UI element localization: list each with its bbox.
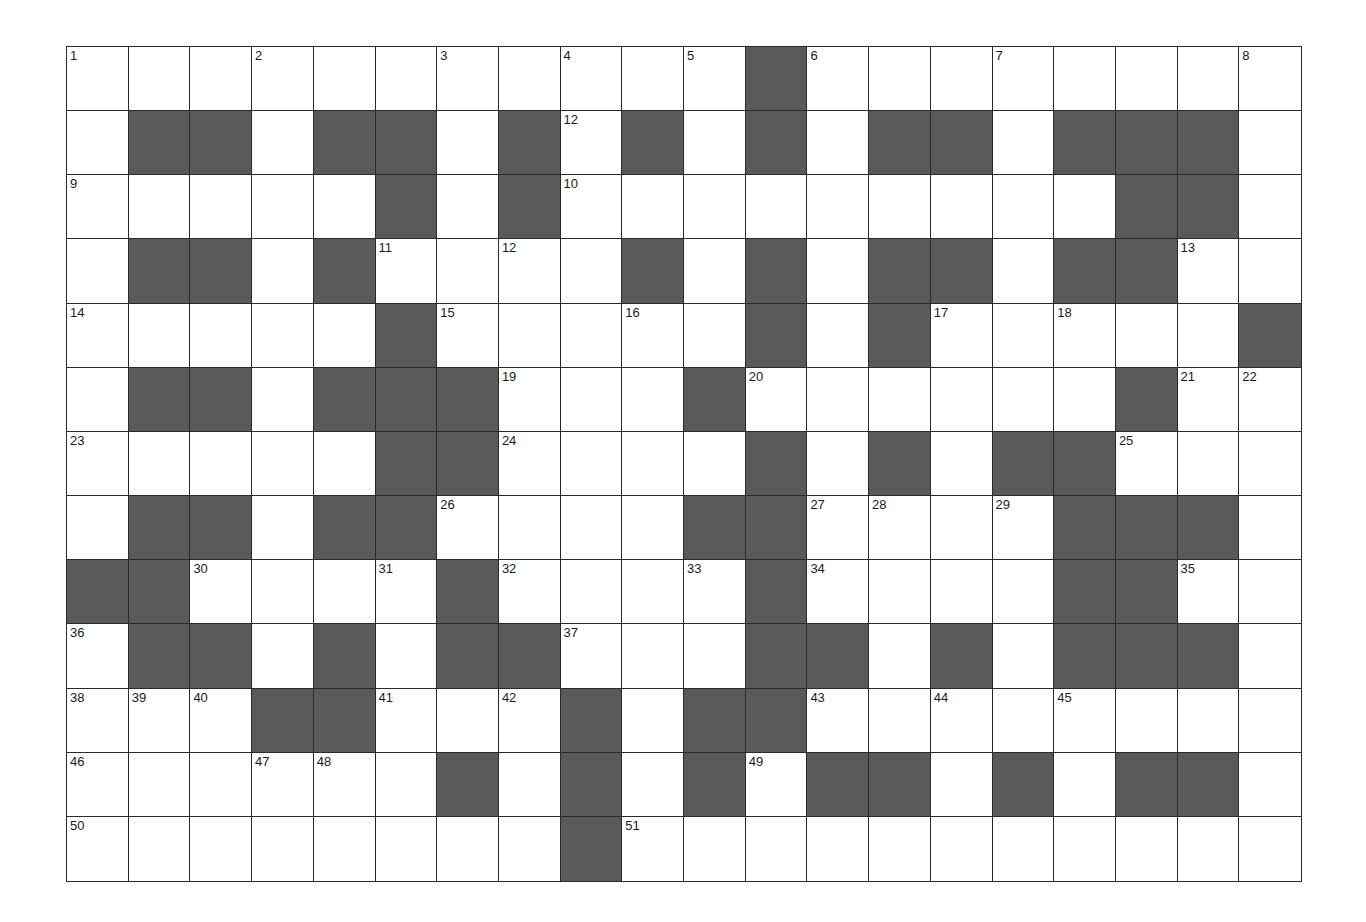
answer-cell[interactable]: [376, 47, 438, 111]
answer-cell[interactable]: [252, 239, 314, 303]
answer-cell[interactable]: [129, 175, 191, 239]
answer-cell[interactable]: [437, 175, 499, 239]
answer-cell[interactable]: [314, 817, 376, 881]
answer-cell[interactable]: [376, 753, 438, 817]
answer-cell[interactable]: 24: [499, 432, 561, 496]
answer-cell[interactable]: [437, 239, 499, 303]
answer-cell[interactable]: 8: [1239, 47, 1301, 111]
answer-cell[interactable]: [190, 432, 252, 496]
answer-cell[interactable]: [1239, 817, 1301, 881]
answer-cell[interactable]: [1239, 111, 1301, 175]
answer-cell[interactable]: [561, 304, 623, 368]
answer-cell[interactable]: [1239, 624, 1301, 688]
answer-cell[interactable]: [931, 175, 993, 239]
answer-cell[interactable]: 7: [993, 47, 1055, 111]
answer-cell[interactable]: [684, 111, 746, 175]
answer-cell[interactable]: [499, 47, 561, 111]
answer-cell[interactable]: 19: [499, 368, 561, 432]
answer-cell[interactable]: [252, 111, 314, 175]
answer-cell[interactable]: 46: [67, 753, 129, 817]
answer-cell[interactable]: [1178, 817, 1240, 881]
answer-cell[interactable]: [437, 817, 499, 881]
answer-cell[interactable]: [622, 175, 684, 239]
answer-cell[interactable]: 38: [67, 689, 129, 753]
answer-cell[interactable]: [807, 817, 869, 881]
answer-cell[interactable]: [1239, 496, 1301, 560]
answer-cell[interactable]: 26: [437, 496, 499, 560]
answer-cell[interactable]: 41: [376, 689, 438, 753]
answer-cell[interactable]: [931, 47, 993, 111]
answer-cell[interactable]: 28: [869, 496, 931, 560]
answer-cell[interactable]: [129, 304, 191, 368]
answer-cell[interactable]: 34: [807, 560, 869, 624]
answer-cell[interactable]: 1: [67, 47, 129, 111]
answer-cell[interactable]: [684, 817, 746, 881]
answer-cell[interactable]: 33: [684, 560, 746, 624]
answer-cell[interactable]: 6: [807, 47, 869, 111]
answer-cell[interactable]: [252, 304, 314, 368]
answer-cell[interactable]: [1054, 753, 1116, 817]
answer-cell[interactable]: [993, 304, 1055, 368]
answer-cell[interactable]: [931, 496, 993, 560]
answer-cell[interactable]: [869, 817, 931, 881]
answer-cell[interactable]: [190, 753, 252, 817]
answer-cell[interactable]: 30: [190, 560, 252, 624]
answer-cell[interactable]: [869, 560, 931, 624]
answer-cell[interactable]: [314, 175, 376, 239]
answer-cell[interactable]: [1178, 47, 1240, 111]
answer-cell[interactable]: [129, 47, 191, 111]
answer-cell[interactable]: [684, 239, 746, 303]
answer-cell[interactable]: 49: [746, 753, 808, 817]
answer-cell[interactable]: [190, 304, 252, 368]
answer-cell[interactable]: [376, 817, 438, 881]
answer-cell[interactable]: 32: [499, 560, 561, 624]
answer-cell[interactable]: 51: [622, 817, 684, 881]
answer-cell[interactable]: [746, 175, 808, 239]
answer-cell[interactable]: [993, 111, 1055, 175]
answer-cell[interactable]: 42: [499, 689, 561, 753]
answer-cell[interactable]: [190, 817, 252, 881]
answer-cell[interactable]: [561, 496, 623, 560]
answer-cell[interactable]: [993, 560, 1055, 624]
answer-cell[interactable]: [561, 432, 623, 496]
answer-cell[interactable]: [622, 560, 684, 624]
answer-cell[interactable]: 10: [561, 175, 623, 239]
answer-cell[interactable]: 3: [437, 47, 499, 111]
answer-cell[interactable]: [746, 817, 808, 881]
answer-cell[interactable]: [1239, 175, 1301, 239]
answer-cell[interactable]: 44: [931, 689, 993, 753]
answer-cell[interactable]: [252, 624, 314, 688]
answer-cell[interactable]: [252, 560, 314, 624]
answer-cell[interactable]: 40: [190, 689, 252, 753]
answer-cell[interactable]: [314, 432, 376, 496]
answer-cell[interactable]: [869, 47, 931, 111]
answer-cell[interactable]: [1054, 368, 1116, 432]
answer-cell[interactable]: [67, 239, 129, 303]
answer-cell[interactable]: [622, 496, 684, 560]
answer-cell[interactable]: [561, 560, 623, 624]
answer-cell[interactable]: [1178, 689, 1240, 753]
answer-cell[interactable]: [376, 624, 438, 688]
answer-cell[interactable]: 2: [252, 47, 314, 111]
answer-cell[interactable]: [807, 432, 869, 496]
answer-cell[interactable]: 14: [67, 304, 129, 368]
answer-cell[interactable]: 50: [67, 817, 129, 881]
answer-cell[interactable]: 4: [561, 47, 623, 111]
answer-cell[interactable]: [931, 560, 993, 624]
answer-cell[interactable]: [1239, 560, 1301, 624]
answer-cell[interactable]: [684, 175, 746, 239]
answer-cell[interactable]: [252, 175, 314, 239]
answer-cell[interactable]: [1116, 689, 1178, 753]
answer-cell[interactable]: 39: [129, 689, 191, 753]
answer-cell[interactable]: [1116, 304, 1178, 368]
answer-cell[interactable]: [993, 817, 1055, 881]
answer-cell[interactable]: 25: [1116, 432, 1178, 496]
answer-cell[interactable]: [684, 432, 746, 496]
answer-cell[interactable]: [314, 560, 376, 624]
answer-cell[interactable]: [807, 368, 869, 432]
answer-cell[interactable]: [1054, 817, 1116, 881]
answer-cell[interactable]: [869, 689, 931, 753]
answer-cell[interactable]: [931, 753, 993, 817]
answer-cell[interactable]: [684, 624, 746, 688]
answer-cell[interactable]: [684, 304, 746, 368]
